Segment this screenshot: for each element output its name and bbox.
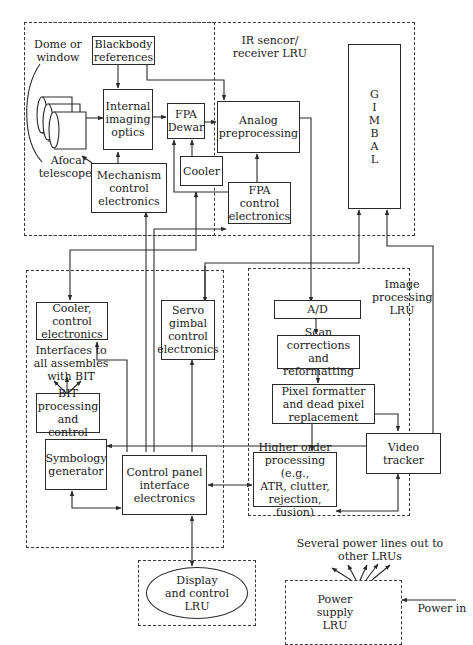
interfaces-label: Interfaces to all assembles with BIT (32, 344, 110, 383)
blackbody-references-block: Blackbody references (92, 36, 155, 65)
display-control-lru-ellipse: Display and control LRU (146, 567, 248, 619)
pixel-formatter-block: Pixel formatter and dead pixel replaceme… (272, 384, 375, 424)
symbology-generator-block: Symbology generator (45, 439, 107, 490)
ad-converter-block: A/D (274, 300, 361, 319)
scan-corrections-block: Scan corrections and reformatting (277, 335, 360, 369)
gimbal-block: G I M B A L (348, 44, 401, 209)
fpa-control-electronics-block: FPA control electronics (228, 182, 291, 224)
dome-window-label: Dome or window (28, 38, 88, 64)
image-processing-lru-label: Image processing LRU (372, 278, 432, 317)
control-panel-interface-block: Control panel interface electronics (122, 455, 207, 515)
servo-gimbal-control-block: Servo gimbal control electronics (161, 300, 215, 360)
power-supply-lru-label: Power supply LRU (305, 593, 365, 632)
video-tracker-block: Video tracker (366, 433, 441, 474)
higher-order-processing-block: Higher order processing (e.g., ATR, clut… (253, 452, 337, 507)
analog-preprocessing-block: Analog preprocessing (217, 101, 300, 153)
internal-imaging-optics-block: Internal imaging optics (103, 89, 153, 150)
cooler-block: Cooler (180, 156, 223, 186)
bit-processing-control-block: BIT processing and control (36, 393, 100, 433)
cooler-control-electronics-block: Cooler, control electronics (36, 302, 108, 340)
power-in-label: Power in (412, 602, 472, 615)
power-lines-label: Several power lines out to other LRUs (290, 537, 450, 563)
ir-sensor-lru-label: IR sencor/ receiver LRU (215, 34, 325, 60)
mechanism-control-electronics-block: Mechanism control electronics (91, 163, 167, 213)
fpa-dewar-block: FPA Dewar (167, 103, 205, 139)
